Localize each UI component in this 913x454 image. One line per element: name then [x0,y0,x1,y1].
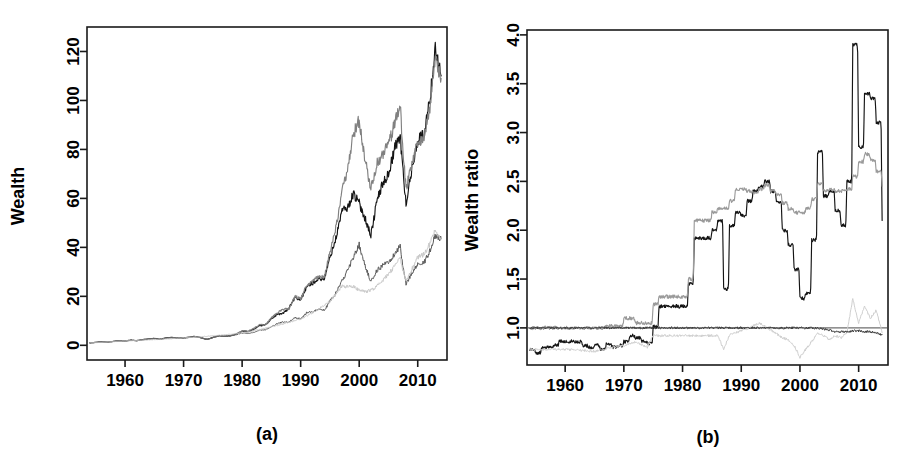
x-tick-label: 1980 [223,371,261,390]
panel-a-yaxis: Wealth 020406080100120 [8,37,87,350]
x-tick-label: 2000 [781,376,819,395]
y-tick-label: 4.0 [505,23,524,47]
x-tick-label: 1970 [605,376,643,395]
panel-b-caption: (b) [697,427,720,447]
panel-b-ylabel: Wealth ratio [462,149,482,252]
chart-panel-b: Wealth ratio 1.01.52.02.53.03.54.0 19601… [456,0,913,454]
x-tick-label: 2010 [399,371,437,390]
panel-b-yaxis: Wealth ratio 1.01.52.02.53.03.54.0 [462,23,527,340]
panel-a-svg: Wealth 020406080100120 19601970198019902… [0,0,457,454]
x-tick-label: 1980 [664,376,702,395]
series-wealth-lightgray [90,230,441,343]
y-tick-label: 1.0 [505,316,524,340]
y-tick-label: 120 [65,37,84,65]
panel-b-xaxis: 196019701980199020002010 [546,365,877,395]
x-tick-label: 1970 [165,371,203,390]
chart-panel-a: Wealth 020406080100120 19601970198019902… [0,0,457,454]
series-wealth-gray-upper [90,56,441,343]
y-tick-label: 1.5 [505,267,524,291]
panel-a-caption: (a) [256,424,278,444]
x-tick-label: 1990 [282,371,320,390]
y-tick-label: 20 [65,287,84,306]
series-wealth-gray-lower [90,234,441,343]
x-tick-label: 2000 [340,371,378,390]
y-tick-label: 3.5 [505,72,524,96]
y-tick-label: 0 [65,341,84,350]
panel-b-svg: Wealth ratio 1.01.52.02.53.03.54.0 19601… [456,0,913,454]
series-ratio-black-step [530,43,882,354]
panel-a-xaxis: 196019701980199020002010 [106,360,437,390]
y-tick-label: 40 [65,238,84,257]
x-tick-label: 1960 [106,371,144,390]
panel-a-series-group [90,42,441,343]
panel-b-series-group [527,43,888,358]
x-tick-label: 1990 [722,376,760,395]
panel-b-frame [527,30,888,365]
y-tick-label: 2.5 [505,170,524,194]
panel-a-frame [87,27,447,360]
y-tick-label: 100 [65,86,84,114]
y-tick-label: 60 [65,189,84,208]
y-tick-label: 2.0 [505,218,524,242]
panel-a-ylabel: Wealth [8,167,28,226]
y-tick-label: 80 [65,140,84,159]
x-tick-label: 2010 [840,376,878,395]
x-tick-label: 1960 [546,376,584,395]
series-wealth-black [90,42,441,343]
y-tick-label: 3.0 [505,121,524,145]
series-ratio-gray-step [530,152,882,329]
figure-container: Wealth 020406080100120 19601970198019902… [0,0,913,454]
